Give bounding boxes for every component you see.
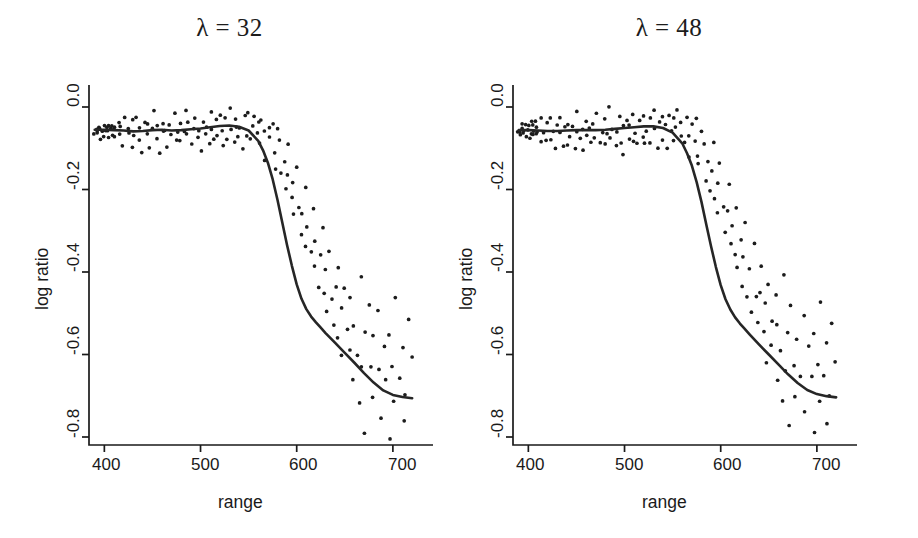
data-point <box>745 295 749 299</box>
data-point <box>643 141 647 145</box>
data-point <box>120 144 124 148</box>
data-point <box>581 148 585 152</box>
data-point <box>708 189 712 193</box>
data-point <box>325 310 329 314</box>
xtick-label: 600 <box>713 455 741 475</box>
data-point <box>274 167 278 171</box>
data-point <box>393 296 397 300</box>
data-point <box>99 137 103 141</box>
data-point <box>722 205 726 209</box>
ytick-label: -0.4 <box>64 243 84 272</box>
data-point <box>173 111 177 115</box>
data-point <box>635 141 639 145</box>
data-point <box>340 353 344 357</box>
data-point <box>407 318 411 322</box>
data-point <box>107 136 111 140</box>
y-axis-label-left: log ratio <box>32 248 53 310</box>
data-point <box>379 416 383 420</box>
data-point <box>527 124 531 128</box>
data-point <box>549 138 553 142</box>
data-point <box>656 146 660 150</box>
data-point <box>327 250 331 254</box>
data-point <box>524 123 528 127</box>
data-point <box>132 134 136 138</box>
xtick-label: 400 <box>516 455 544 475</box>
data-point <box>317 286 321 290</box>
data-point <box>286 173 290 177</box>
data-point <box>667 114 671 118</box>
data-point <box>371 396 375 400</box>
data-point <box>220 129 224 133</box>
data-point <box>726 209 730 213</box>
data-point <box>555 123 559 127</box>
data-point <box>387 333 391 337</box>
data-point <box>131 118 135 122</box>
xtick-label: 400 <box>92 455 120 475</box>
data-point <box>601 131 605 135</box>
data-point <box>531 123 535 127</box>
data-point <box>812 332 816 336</box>
data-point <box>716 181 720 185</box>
data-point <box>665 147 669 151</box>
ytick-label: -0.6 <box>64 326 84 355</box>
data-point <box>535 125 539 129</box>
data-point <box>113 125 117 129</box>
data-point <box>633 131 637 135</box>
data-point <box>693 139 697 143</box>
data-point <box>759 264 763 268</box>
data-point <box>792 364 796 368</box>
data-point <box>304 186 308 190</box>
data-point <box>615 144 619 148</box>
data-point <box>175 138 179 142</box>
data-point <box>310 250 314 254</box>
data-point <box>748 267 752 271</box>
data-point <box>158 151 162 155</box>
data-point <box>92 132 96 136</box>
data-point <box>388 437 392 441</box>
x-axis-label-right: range <box>642 492 687 513</box>
data-point <box>807 344 811 348</box>
data-point <box>332 323 336 327</box>
data-point <box>304 245 308 249</box>
data-point <box>384 378 388 382</box>
data-point <box>204 132 208 136</box>
data-point <box>615 130 619 134</box>
data-point <box>234 117 238 121</box>
data-point <box>123 116 127 120</box>
data-point <box>679 134 683 138</box>
data-point <box>300 233 304 237</box>
data-point <box>825 422 829 426</box>
data-point <box>608 136 612 140</box>
data-point <box>770 319 774 323</box>
data-point <box>779 349 783 353</box>
data-point <box>137 138 141 142</box>
data-point <box>95 131 99 135</box>
data-point <box>351 378 355 382</box>
data-point <box>652 108 656 112</box>
data-point <box>562 144 566 148</box>
data-point <box>363 330 367 334</box>
data-point <box>186 120 190 124</box>
data-point <box>218 113 222 117</box>
data-point <box>775 323 779 327</box>
data-point <box>782 273 786 277</box>
data-point <box>786 331 790 335</box>
data-point <box>765 361 769 365</box>
data-point <box>739 238 743 242</box>
data-point <box>202 120 206 124</box>
data-point <box>664 123 668 127</box>
data-point <box>252 115 256 119</box>
data-point <box>603 142 607 146</box>
x-axis-label-left: range <box>218 492 263 513</box>
data-point <box>710 169 714 173</box>
data-point <box>286 142 290 146</box>
data-point <box>545 121 549 125</box>
data-point <box>283 160 287 164</box>
data-point <box>571 125 575 129</box>
data-point <box>229 128 233 132</box>
data-point <box>313 264 317 268</box>
data-point <box>291 181 295 185</box>
data-point <box>225 137 229 141</box>
panel-lambda-48: λ = 48 0.0 -0.2 -0.4 -0.6 -0.8 400 500 6… <box>446 0 918 538</box>
data-point <box>648 141 652 145</box>
